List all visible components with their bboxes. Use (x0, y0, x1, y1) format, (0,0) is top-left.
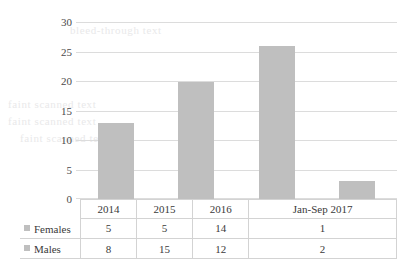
data-cell: 2 (249, 238, 397, 258)
legend-swatch-icon (24, 245, 30, 251)
y-axis-tick-label: 10 (46, 135, 72, 146)
data-table: 2014 2015 2016 Jan-Sep 2017 Females 5 5 … (20, 199, 397, 259)
bar-slot (317, 22, 397, 199)
bar-slot (76, 22, 156, 199)
y-axis-tick-label: 30 (46, 17, 72, 28)
bar-series (76, 22, 397, 199)
bar-slot (156, 22, 236, 199)
data-cell: 5 (137, 219, 193, 239)
series-label: Females (34, 223, 71, 235)
category-header-cell: Jan-Sep 2017 (249, 200, 397, 219)
bar (339, 181, 375, 199)
y-axis-tick-label: 25 (46, 47, 72, 58)
bar (98, 123, 134, 199)
table-header-row: 2014 2015 2016 Jan-Sep 2017 (20, 200, 397, 219)
data-cell: 12 (193, 238, 249, 258)
legend-entry-males: Males (20, 238, 81, 258)
plot-area (76, 22, 397, 199)
y-axis-tick-label: 15 (46, 106, 72, 117)
bar (178, 82, 214, 199)
legend-entry-females: Females (20, 219, 81, 239)
bar-slot (237, 22, 317, 199)
series-label: Males (34, 243, 61, 255)
data-cell: 14 (193, 219, 249, 239)
category-header-cell: 2014 (81, 200, 137, 219)
bar (259, 46, 295, 199)
y-axis-tick-label: 5 (46, 165, 72, 176)
category-header-cell: 2016 (193, 200, 249, 219)
category-header-cell: 2015 (137, 200, 193, 219)
bar-chart-figure: bleed-through text faint scanned text fa… (0, 0, 411, 271)
data-cell: 8 (81, 238, 137, 258)
data-cell: 15 (137, 238, 193, 258)
data-cell: 1 (249, 219, 397, 239)
legend-swatch-icon (24, 225, 30, 231)
table-row: Females 5 5 14 1 (20, 219, 397, 239)
y-axis-tick-label: 20 (46, 76, 72, 87)
y-axis: 30 25 20 15 10 5 0 (46, 22, 72, 199)
data-cell: 5 (81, 219, 137, 239)
table-corner-cell (20, 200, 81, 219)
table-row: Males 8 15 12 2 (20, 238, 397, 258)
